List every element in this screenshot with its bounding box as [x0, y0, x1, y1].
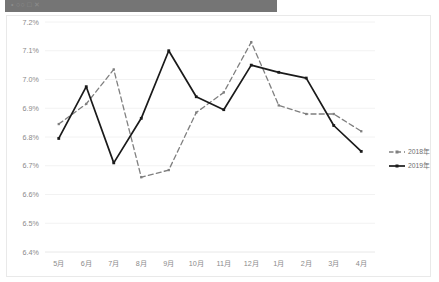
y-axis-tick-label: 7.1% — [23, 46, 40, 55]
data-point-marker — [58, 123, 60, 125]
data-point-marker — [305, 113, 307, 115]
data-point-marker — [305, 77, 308, 80]
legend-marker — [396, 165, 399, 168]
x-axis-tick-label: 12月 — [244, 259, 259, 268]
data-point-marker — [250, 64, 253, 67]
y-axis-tick-label: 6.9% — [23, 104, 40, 113]
y-axis-tick-labels: 7.2%7.1%7.0%6.9%6.8%6.7%6.6%6.5%6.4% — [23, 18, 40, 257]
x-axis-tick-label: 1月 — [273, 259, 284, 268]
x-axis-tick-label: 7月 — [108, 259, 119, 268]
x-axis-tick-label: 4月 — [356, 259, 367, 268]
series-group — [57, 41, 362, 178]
data-point-marker — [277, 71, 280, 74]
legend-label: 2018年 — [408, 147, 430, 156]
legend-label: 2019年 — [408, 161, 430, 170]
x-axis-tick-label: 8月 — [136, 259, 147, 268]
data-point-marker — [250, 41, 252, 43]
data-point-marker — [333, 113, 335, 115]
y-axis-tick-label: 6.5% — [23, 219, 40, 228]
window-title-text: • ○○ □ ✕ — [11, 1, 40, 9]
data-point-marker — [195, 95, 198, 98]
data-point-marker — [85, 103, 87, 105]
data-point-marker — [168, 169, 170, 171]
y-axis-tick-label: 6.6% — [23, 190, 40, 199]
series-line-2018年 — [59, 42, 362, 177]
x-axis-tick-label: 6月 — [81, 259, 92, 268]
data-point-marker — [195, 111, 197, 113]
series-line-2019年 — [59, 51, 362, 163]
y-axis-tick-label: 7.0% — [23, 75, 40, 84]
line-chart: 7.2%7.1%7.0%6.9%6.8%6.7%6.6%6.5%6.4% 5月6… — [7, 16, 432, 278]
data-point-marker — [140, 176, 142, 178]
data-point-marker — [332, 124, 335, 127]
y-axis-tick-label: 6.7% — [23, 161, 40, 170]
screenshot-root: • ○○ □ ✕ 7.2%7.1%7.0%6.9%6.8%6.7%6.6%6.5… — [0, 0, 439, 282]
x-axis-tick-labels: 5月6月7月8月9月10月11月12月1月2月3月4月 — [53, 259, 367, 268]
y-axis-tick-label: 6.8% — [23, 133, 40, 142]
data-point-marker — [113, 68, 115, 70]
data-point-marker — [167, 49, 170, 52]
data-point-marker — [360, 130, 362, 132]
chart-svg: 7.2%7.1%7.0%6.9%6.8%6.7%6.6%6.5%6.4% 5月6… — [7, 16, 432, 278]
chart-legend: 2018年2019年 — [389, 147, 430, 170]
data-point-marker — [223, 91, 225, 93]
x-axis-tick-label: 10月 — [189, 259, 204, 268]
data-point-marker — [360, 150, 363, 153]
x-axis-tick-label: 3月 — [328, 259, 339, 268]
gridlines-group — [45, 22, 375, 252]
y-axis-tick-label: 6.4% — [23, 248, 40, 257]
x-axis-tick-label: 2月 — [301, 259, 312, 268]
data-point-marker — [140, 117, 143, 120]
x-axis-tick-label: 9月 — [163, 259, 174, 268]
data-point-marker — [222, 108, 225, 111]
data-point-marker — [278, 104, 280, 106]
x-axis-tick-label: 11月 — [217, 259, 231, 268]
data-point-marker — [57, 137, 60, 140]
x-axis-tick-label: 5月 — [53, 259, 64, 268]
window-title-bar: • ○○ □ ✕ — [5, 0, 277, 12]
data-point-marker — [112, 161, 115, 164]
chart-card: 7.2%7.1%7.0%6.9%6.8%6.7%6.6%6.5%6.4% 5月6… — [6, 15, 431, 277]
y-axis-tick-label: 7.2% — [23, 18, 40, 27]
legend-marker — [396, 151, 399, 154]
data-point-marker — [85, 85, 88, 88]
